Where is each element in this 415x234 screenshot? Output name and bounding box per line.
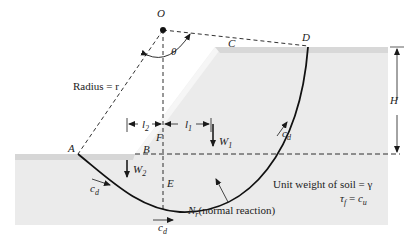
label-B: B bbox=[143, 143, 150, 155]
ground-surface-shading bbox=[15, 154, 135, 160]
diagram-canvas: O C D A B F E θ Radius = r H l2 l1 W1 W2… bbox=[0, 0, 415, 234]
label-C: C bbox=[228, 37, 236, 49]
crest-shading bbox=[215, 47, 388, 53]
radius-label: Radius = r bbox=[73, 80, 119, 92]
center-point-O bbox=[160, 27, 166, 33]
label-E: E bbox=[166, 177, 174, 189]
slope-stability-diagram: O C D A B F E θ Radius = r H l2 l1 W1 W2… bbox=[0, 0, 415, 234]
height-label: H bbox=[389, 94, 399, 106]
label-theta: θ bbox=[171, 45, 177, 57]
radius-line-OD bbox=[163, 30, 308, 46]
label-l2: l2 bbox=[142, 118, 149, 133]
theta-arc bbox=[147, 34, 190, 57]
label-O: O bbox=[157, 7, 165, 19]
unit-weight-label: Unit weight of soil = γ bbox=[273, 178, 373, 190]
label-A: A bbox=[67, 142, 75, 154]
label-F: F bbox=[155, 131, 163, 143]
label-D: D bbox=[301, 31, 310, 43]
